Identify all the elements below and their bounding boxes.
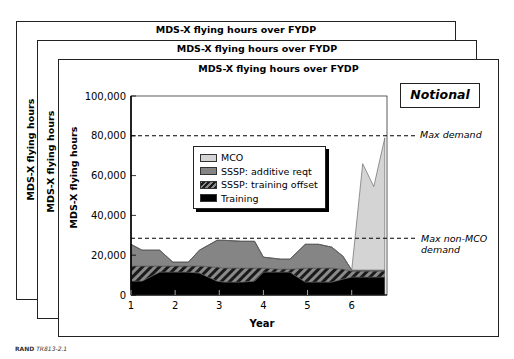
svg-text:80,000: 80,000 (91, 130, 126, 141)
hatch-swatch-icon (200, 181, 217, 189)
legend-item-sssp-additive: SSSP: additive reqt (200, 165, 319, 179)
svg-text:Year: Year (249, 318, 275, 329)
footer-org: RAND (15, 345, 34, 352)
svg-text:0: 0 (120, 290, 126, 301)
max-non-mco-label-line2: demand (421, 244, 460, 255)
svg-text:6: 6 (349, 300, 355, 311)
svg-text:1: 1 (128, 300, 134, 311)
footer-id: TR813-2.1 (36, 345, 67, 352)
training-swatch-icon (200, 194, 217, 202)
svg-text:5: 5 (304, 300, 310, 311)
chart-legend: MCO SSSP: additive reqt SSSP: training o… (193, 146, 326, 209)
legend-label: MCO (221, 152, 243, 163)
svg-text:20,000: 20,000 (91, 250, 126, 261)
svg-text:4: 4 (260, 300, 266, 311)
legend-label: SSSP: training offset (221, 179, 318, 190)
svg-text:2: 2 (172, 300, 178, 311)
svg-text:40,000: 40,000 (91, 210, 126, 221)
legend-label: SSSP: additive reqt (221, 166, 312, 177)
legend-item-sssp-offset: SSSP: training offset (200, 178, 319, 192)
sssp-additive-swatch-icon (200, 167, 217, 175)
max-non-mco-label-line1: Max non-MCO (421, 233, 487, 244)
figure-footer: RAND TR813-2.1 (15, 345, 67, 352)
legend-item-training: Training (200, 192, 319, 206)
svg-text:60,000: 60,000 (91, 170, 126, 181)
legend-label: Training (221, 193, 259, 204)
max-demand-label: Max demand (420, 129, 482, 140)
notional-badge: Notional (400, 83, 480, 108)
svg-text:100,000: 100,000 (85, 91, 126, 102)
mco-swatch-icon (200, 154, 217, 162)
legend-item-mco: MCO (200, 151, 319, 165)
svg-text:3: 3 (216, 300, 222, 311)
